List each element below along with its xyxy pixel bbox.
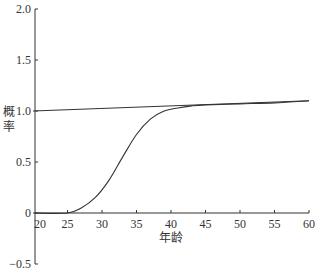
y-tick-label: 1.0 bbox=[16, 104, 31, 118]
y-tick-label: 2.0 bbox=[16, 2, 31, 16]
x-tick-label: 45 bbox=[200, 217, 212, 231]
x-tick-label: 20 bbox=[34, 217, 46, 231]
series-sigmoid-line bbox=[33, 101, 309, 214]
y-tick-label: −0.5 bbox=[9, 257, 31, 271]
x-tick-label: 25 bbox=[62, 217, 74, 231]
x-axis-label: 年龄 bbox=[159, 231, 183, 245]
y-axis-label-2: 率 bbox=[3, 119, 15, 134]
x-tick-label: 40 bbox=[165, 217, 177, 231]
x-tick-label: 30 bbox=[96, 217, 108, 231]
series-group bbox=[33, 101, 309, 214]
y-tick-label: 0 bbox=[25, 206, 31, 220]
y-axis-label: 概 bbox=[3, 105, 15, 119]
x-tick-label: 35 bbox=[131, 217, 143, 231]
chart: −0.500.51.01.52.0202530354045505560 概 率 … bbox=[0, 0, 319, 280]
y-tick-label: 0.5 bbox=[16, 155, 31, 169]
x-tick-label: 55 bbox=[269, 217, 281, 231]
y-tick-label: 1.5 bbox=[16, 53, 31, 67]
x-tick-label: 60 bbox=[303, 217, 315, 231]
x-tick-label: 50 bbox=[234, 217, 246, 231]
